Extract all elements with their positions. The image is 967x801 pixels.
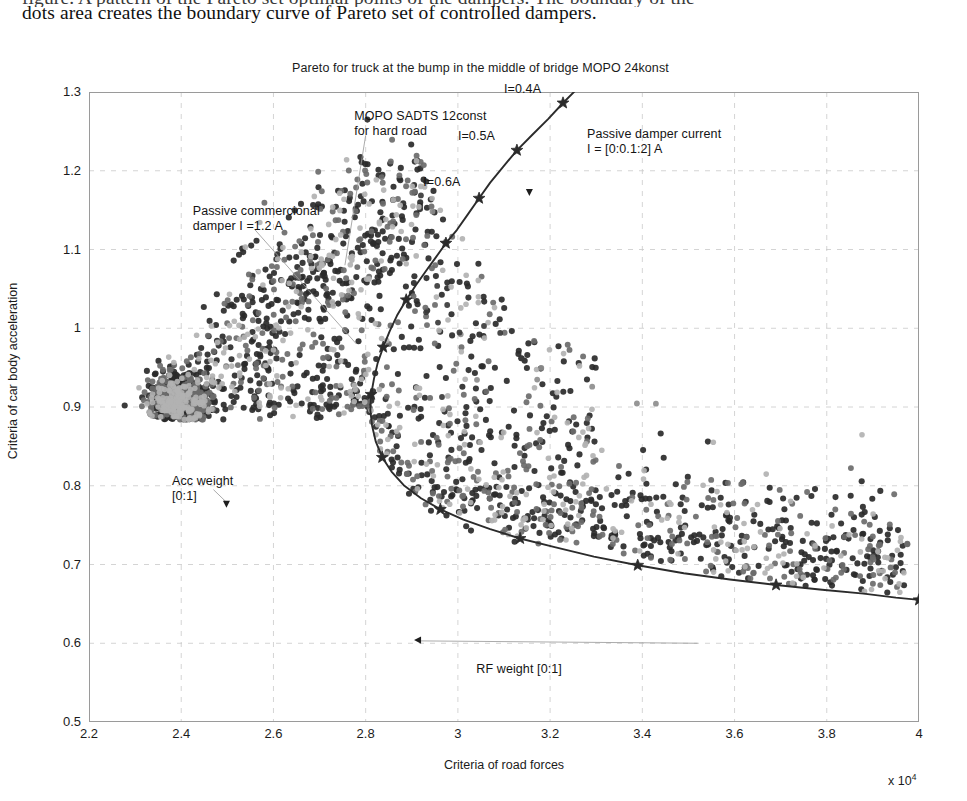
annotation-current-06: I=0.6A [423,175,460,190]
document-line-full: dots area creates the boundary curve of … [22,2,597,24]
plot-area [89,92,919,722]
x-tick-label: 3.8 [802,726,852,741]
plot-canvas [89,92,919,722]
y-tick-label: 0.9 [37,399,81,414]
y-axis-label: Criteria of car body acceleration [6,191,20,551]
annotation-passive-commercial-label: Passive commercional damper I =1.2 A [193,204,320,234]
annotation-current-04: I=0.4A [504,82,541,97]
y-tick-label: 0.8 [37,478,81,493]
x-multiplier-base: x 10 [888,774,912,788]
x-axis-multiplier: x 104 [888,772,916,788]
x-tick-label: 3.2 [525,726,575,741]
scatter-points [122,117,911,596]
x-tick-label: 2.8 [341,726,391,741]
y-tick-label: 0.6 [37,635,81,650]
x-axis-label: Criteria of road forces [89,758,919,772]
x-multiplier-exponent: 4 [912,772,917,782]
x-tick-label: 3.4 [617,726,667,741]
y-tick-label: 1.2 [37,163,81,178]
x-tick-label: 4 [894,726,944,741]
x-tick-label: 2.2 [64,726,114,741]
y-tick-label: 1 [37,320,81,335]
chart-title: Pareto for truck at the bump in the midd… [292,61,669,75]
y-tick-label: 1.3 [37,84,81,99]
annotation-acc-weight-label: Acc weight [0:1] [172,474,233,504]
annotation-pareto-current-label: Passive damper current I = [0:0.1:2] A [587,127,721,157]
x-tick-label: 2.4 [156,726,206,741]
pareto-chart-figure: Pareto for truck at the bump in the midd… [0,46,967,801]
annotation-rf-weight-label: RF weight [0:1] [476,662,562,677]
x-tick-label: 2.6 [248,726,298,741]
y-tick-label: 1.1 [37,242,81,257]
x-tick-label: 3.6 [710,726,760,741]
annotation-mopo-sadts-label: MOPO SADTS 12const for hard road [354,109,486,139]
y-tick-label: 0.7 [37,557,81,572]
x-tick-label: 3 [433,726,483,741]
